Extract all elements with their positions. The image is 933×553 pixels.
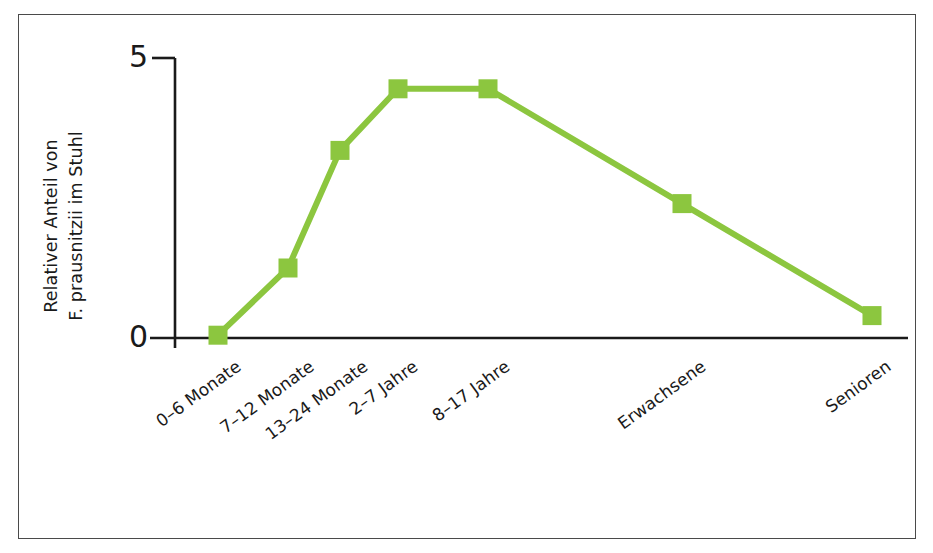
y-axis-title-line-1: Relativer Anteil von [41, 139, 61, 312]
data-point-marker [331, 141, 350, 160]
data-point-marker [389, 79, 408, 98]
line-chart-plot [0, 0, 933, 553]
y-tick-label-0: 0 [108, 322, 148, 352]
data-point-marker [863, 306, 882, 325]
y-axis-title: Relativer Anteil von F. prausnitzii im S… [33, 101, 93, 351]
data-point-marker [279, 259, 298, 278]
data-line-f-prausnitzii [218, 89, 872, 335]
data-point-marker [673, 194, 692, 213]
data-point-marker [479, 79, 498, 98]
data-point-marker [209, 326, 228, 345]
chart-figure: 5 0 Relativer Anteil von F. prausnitzii … [0, 0, 933, 553]
y-tick-label-5: 5 [108, 42, 148, 72]
y-axis-title-line-2: F. prausnitzii im Stuhl [66, 131, 86, 321]
